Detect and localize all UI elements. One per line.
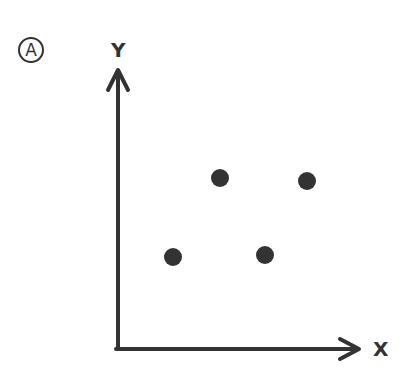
y-axis xyxy=(108,70,128,349)
x-axis xyxy=(116,339,359,359)
data-point xyxy=(164,248,182,266)
data-point xyxy=(298,172,316,190)
data-point xyxy=(256,246,274,264)
scatter-diagram xyxy=(0,0,414,378)
data-points xyxy=(164,169,316,266)
data-point xyxy=(211,169,229,187)
